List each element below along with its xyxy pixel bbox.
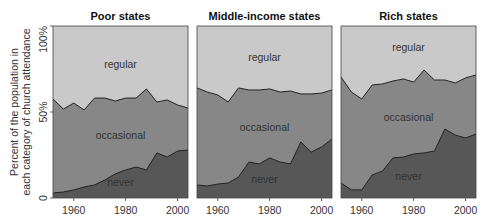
regular-label: regular [392, 41, 425, 53]
never-label: never [251, 173, 278, 185]
y-tick-label: 0 [37, 195, 49, 201]
x-tick-label: 2000 [310, 204, 334, 216]
occasional-label: occasional [240, 121, 290, 133]
x-tick-label: 1980 [402, 204, 426, 216]
occasional-label: occasional [384, 111, 434, 123]
church-attendance-chart: Percent of the population ineach categor… [0, 0, 496, 221]
x-tick-label: 2000 [454, 204, 478, 216]
panel-title: Middle-income states [209, 10, 321, 22]
regular-label: regular [248, 51, 281, 63]
panel-title: Rich states [379, 10, 438, 22]
y-axis-label: Percent of the population in [8, 48, 20, 176]
x-tick-label: 1960 [62, 204, 86, 216]
x-tick-label: 1980 [258, 204, 282, 216]
x-tick-label: 1960 [350, 204, 374, 216]
occasional-label: occasional [96, 129, 146, 141]
x-tick-label: 1960 [206, 204, 230, 216]
y-tick-label: 50% [37, 101, 49, 122]
x-tick-label: 1980 [114, 204, 138, 216]
never-label: never [107, 176, 134, 188]
panel-title: Poor states [91, 10, 151, 22]
y-tick-label: 100% [37, 26, 49, 53]
never-label: never [395, 170, 422, 182]
y-axis-label: each category of church attendance [20, 28, 32, 195]
regular-label: regular [104, 58, 137, 70]
x-tick-label: 2000 [166, 204, 190, 216]
